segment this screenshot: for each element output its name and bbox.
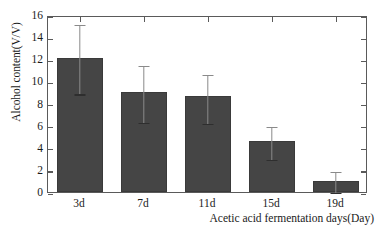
- y-tick-mark-right: [361, 149, 366, 150]
- error-bar-cap-lower: [267, 160, 278, 162]
- y-tick-mark-right: [361, 61, 366, 62]
- y-tick-mark: [48, 83, 53, 84]
- error-bar-cap-upper: [331, 172, 342, 174]
- y-tick-label: 8: [37, 98, 43, 110]
- error-bar-line: [207, 75, 208, 124]
- y-tick-mark-right: [361, 105, 366, 106]
- plot-area: 0246810121416: [47, 16, 367, 193]
- y-tick-mark: [48, 39, 53, 40]
- x-tick-mark-top: [80, 17, 81, 22]
- y-tick-mark: [48, 17, 53, 18]
- x-tick-label: 15d: [262, 197, 279, 209]
- y-tick-mark: [48, 61, 53, 62]
- x-tick-mark-top: [336, 17, 337, 22]
- y-tick-mark-right: [361, 17, 366, 18]
- y-tick-label: 6: [37, 120, 43, 132]
- x-tick-label: 3d: [73, 197, 85, 209]
- error-bar-cap-lower: [203, 124, 214, 126]
- error-bar-line: [143, 66, 144, 123]
- y-tick-mark: [48, 171, 53, 172]
- y-tick-label: 16: [32, 9, 44, 21]
- error-bar-cap-upper: [203, 75, 214, 77]
- x-tick-mark-top: [144, 17, 145, 22]
- error-bar-cap-lower: [331, 193, 342, 195]
- x-axis-title: Acetic acid fermentation days(Day): [0, 212, 374, 224]
- error-bar-cap-upper: [75, 25, 86, 27]
- error-bar-line: [335, 172, 336, 193]
- y-tick-mark-right: [361, 171, 366, 172]
- x-tick-label: 19d: [326, 197, 343, 209]
- error-bar-line: [271, 127, 272, 160]
- error-bar-cap-upper: [139, 66, 150, 68]
- y-tick-mark: [48, 149, 53, 150]
- error-bar-cap-lower: [75, 94, 86, 96]
- x-tick-mark-top: [272, 17, 273, 22]
- error-bar-cap-lower: [139, 123, 150, 125]
- y-tick-label: 2: [37, 164, 43, 176]
- y-tick-label: 12: [32, 53, 44, 65]
- y-tick-label: 10: [32, 75, 44, 87]
- y-tick-label: 0: [37, 186, 43, 198]
- x-tick-mark-top: [208, 17, 209, 22]
- y-tick-mark-right: [361, 83, 366, 84]
- y-tick-mark-right: [361, 194, 366, 195]
- y-tick-mark-right: [361, 127, 366, 128]
- y-tick-label: 14: [32, 31, 44, 43]
- y-tick-label: 4: [37, 142, 43, 154]
- x-tick-label: 11d: [199, 197, 216, 209]
- error-bar-line: [79, 25, 80, 95]
- x-tick-label: 7d: [137, 197, 149, 209]
- y-tick-mark-right: [361, 39, 366, 40]
- y-tick-mark: [48, 194, 53, 195]
- y-tick-mark: [48, 127, 53, 128]
- y-tick-mark: [48, 105, 53, 106]
- error-bar-cap-upper: [267, 127, 278, 129]
- y-axis-title: Alcohol content(V/V): [10, 0, 22, 158]
- alcohol-content-bar-chart: 0246810121416 Alcohol content(V/V) 3d7d1…: [0, 0, 382, 232]
